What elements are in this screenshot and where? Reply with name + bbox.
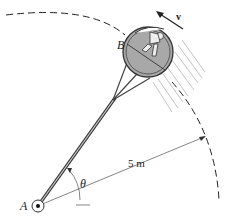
diagram-canvas: B A θ 5 m v	[0, 0, 235, 221]
radius-label: 5 m	[128, 158, 145, 169]
point-a-label: A	[20, 200, 27, 212]
point-b-label: B	[117, 39, 124, 51]
angle-arc	[69, 170, 80, 200]
capsule	[123, 27, 173, 77]
angle-label: θ	[80, 178, 86, 190]
dashed-circular-path	[6, 13, 219, 201]
pivot-a	[32, 200, 44, 212]
diagram-svg	[0, 0, 235, 221]
velocity-label: v	[176, 12, 181, 22]
